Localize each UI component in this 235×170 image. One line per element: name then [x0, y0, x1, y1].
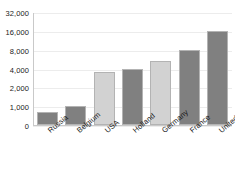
y-axis-tick-label: 4,000	[10, 65, 29, 74]
bar-holland	[122, 69, 143, 126]
y-axis-line	[33, 13, 34, 126]
y-axis-tick-label: 32,000	[5, 9, 29, 18]
x-axis: RussiaBelgiumUSAHollandGermanyFranceUnit…	[33, 126, 232, 170]
plot-area	[33, 13, 232, 126]
bars-group	[33, 13, 232, 126]
y-axis-tick-label: 2,000	[10, 84, 29, 93]
bar-united-kingdom	[207, 31, 228, 125]
y-axis-tick-label: 8,000	[10, 46, 29, 55]
bar-chart: 32,00016,0008,0004,0002,0001,0000 Russia…	[0, 0, 235, 170]
y-axis: 32,00016,0008,0004,0002,0001,0000	[0, 0, 33, 170]
y-axis-tick-label: 0	[25, 122, 29, 131]
y-axis-tick-label: 1,000	[10, 103, 29, 112]
y-axis-tick-label: 16,000	[5, 27, 29, 36]
